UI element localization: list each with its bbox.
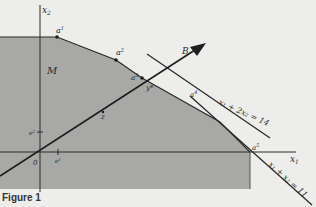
point-a3 (140, 76, 144, 80)
x1-axis-label: x1 (290, 154, 299, 165)
arrow-head-icon (190, 43, 206, 56)
point-label-a5: a5 (252, 142, 259, 152)
point-label-a2: a2 (116, 47, 124, 57)
diagram-canvas: x2 x1 0 M a1 a2 a3 a4 a5 e2 e1 B y* z x₁… (0, 0, 316, 207)
constraint-label-14: x₁ + 2x₂ = 14 (217, 98, 270, 128)
point-a1 (55, 35, 59, 39)
y-star-label: y* (145, 84, 154, 92)
constraint-label-11: x₁ + x₂ = 11 (267, 160, 310, 200)
point-label-a4: a4 (190, 89, 197, 99)
feasible-region-M (0, 37, 250, 189)
figure-caption: Figure 1 (2, 192, 41, 203)
point-a2 (114, 58, 118, 62)
x2-axis-label: x2 (42, 5, 51, 16)
point-label-a1: a1 (56, 25, 64, 35)
region-label-m: M (46, 65, 58, 76)
vector-b-label: B (181, 46, 189, 56)
z-label: z (100, 113, 105, 121)
origin-label: 0 (33, 159, 38, 167)
